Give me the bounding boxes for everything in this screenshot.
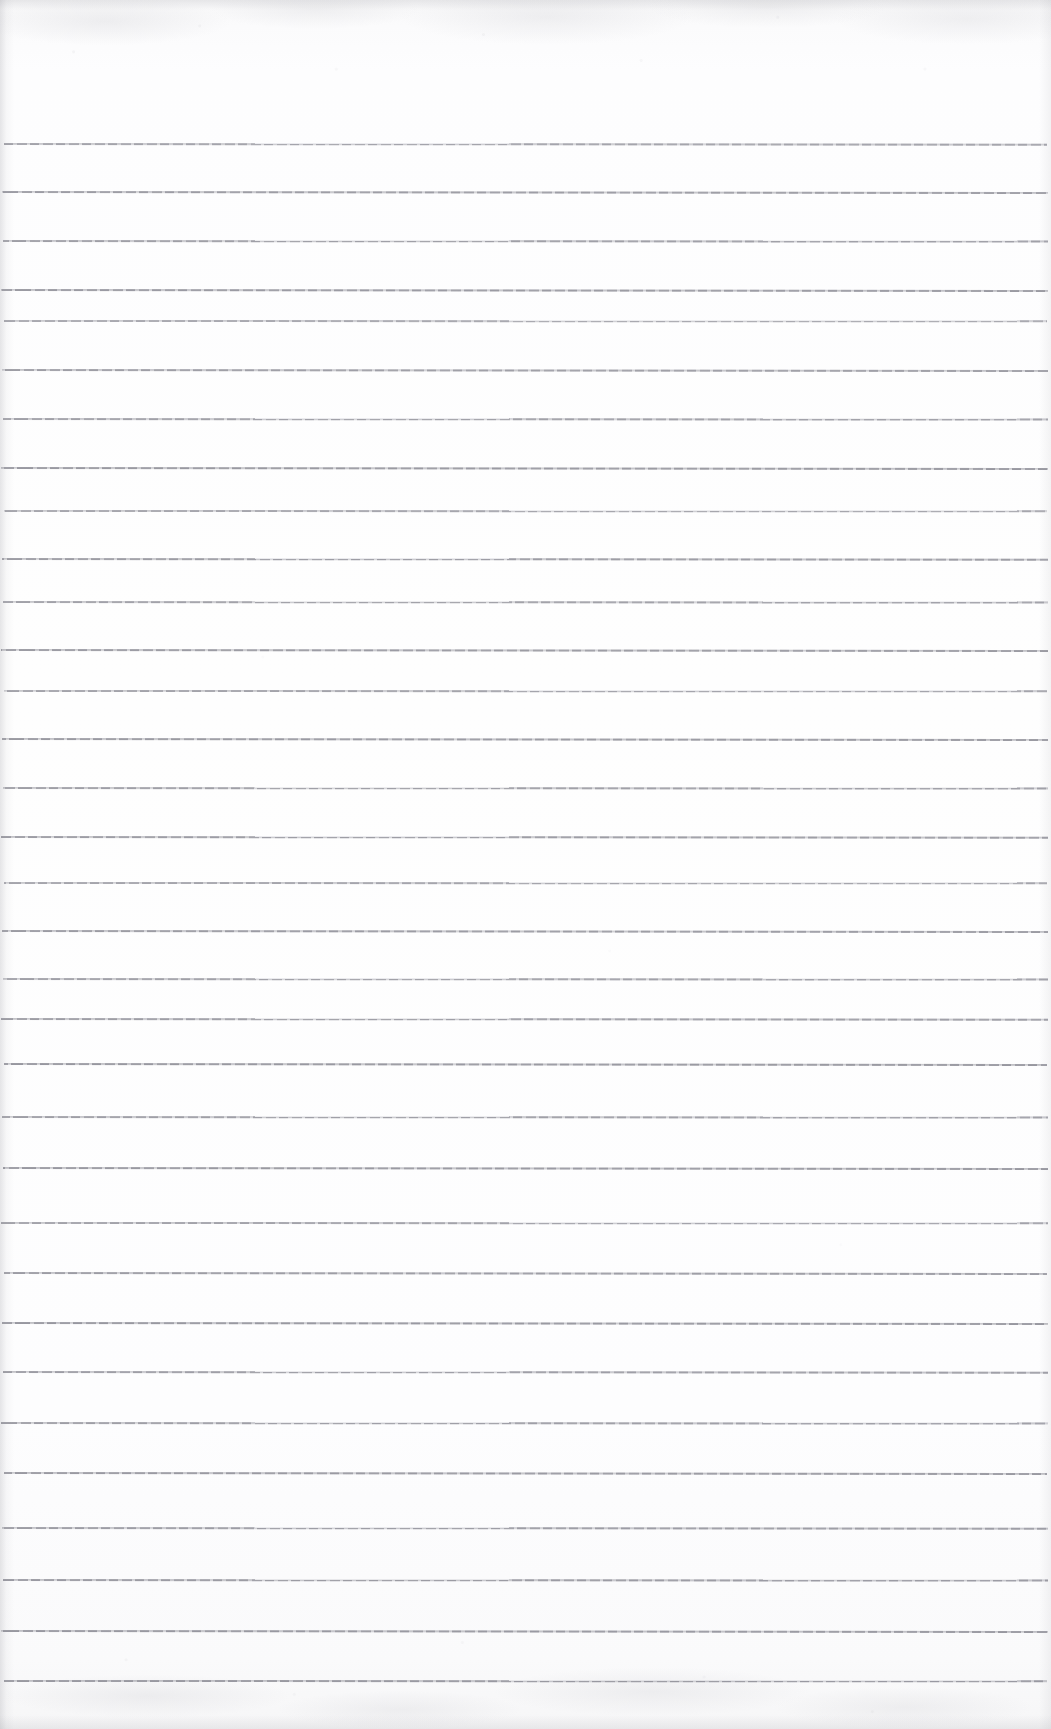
rule-line [2,1322,1048,1325]
rule-line [3,418,1048,421]
rule-line [4,1680,1047,1682]
rule-line [2,930,1048,933]
page-edge-shadow-top [0,0,1051,10]
rule-line [3,978,1048,981]
rule-line [4,1472,1047,1475]
rule-line [4,690,1047,692]
rule-line [1,1222,1048,1224]
rule-line [1,1018,1048,1021]
rule-line [1,1630,1048,1633]
rule-line [4,143,1047,146]
rule-line [2,558,1048,561]
rule-line [3,787,1048,790]
rule-line [2,1116,1048,1119]
rule-line [2,1527,1048,1530]
rule-line [2,191,1048,194]
rule-line [3,1579,1048,1582]
rule-line [2,738,1048,741]
rule-line [3,601,1048,604]
rule-line [3,1167,1048,1170]
rule-line [1,836,1048,839]
page-edge-shadow-bottom [0,1715,1051,1729]
rule-line [3,1371,1048,1374]
rule-line [4,320,1047,322]
page-edge-shadow-left [0,0,14,1729]
page-edge-shadow-right [1039,0,1051,1729]
rule-line [1,649,1048,652]
rule-line [2,369,1048,372]
rule-line [4,510,1047,512]
rule-line [4,882,1047,884]
rule-line [3,240,1048,243]
rule-line [4,1063,1047,1066]
ruled-lines-layer [0,0,1051,1729]
rule-line [1,1422,1048,1425]
rule-line [1,289,1048,292]
rule-line [4,1272,1047,1275]
scanned-page [0,0,1051,1729]
rule-line [1,467,1048,470]
